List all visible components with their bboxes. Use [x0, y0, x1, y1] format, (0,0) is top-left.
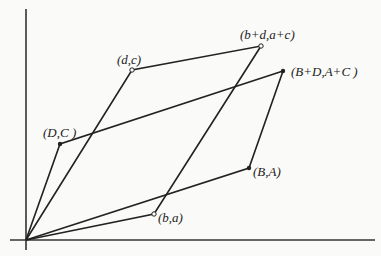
label-bdac: (b+d,a+c): [240, 27, 295, 42]
point-DC-marker: [58, 142, 62, 146]
point-bdac-marker: [259, 44, 263, 48]
label-ba: (b,a): [158, 210, 183, 225]
label-BDAC: (B+D,A+C ): [291, 64, 358, 79]
label-dc: (d,c): [117, 52, 141, 67]
diagram-canvas: (D,C ) (d,c) (b+d,a+c) (B+D,A+C ) (B,A) …: [0, 0, 381, 256]
label-BA: (B,A): [253, 164, 281, 179]
point-BA-marker: [247, 166, 251, 170]
point-dc-marker: [130, 68, 134, 72]
label-DC: (D,C ): [43, 125, 76, 140]
point-ba-marker: [152, 212, 156, 216]
point-BDAC-marker: [281, 69, 285, 73]
